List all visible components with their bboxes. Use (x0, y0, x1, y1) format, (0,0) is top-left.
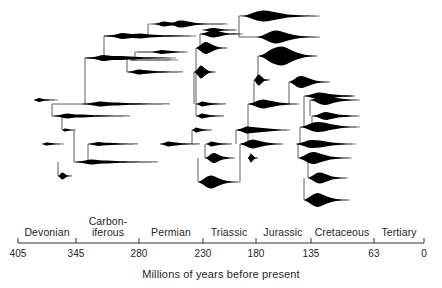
spindle (52, 113, 130, 118)
spindle (127, 69, 183, 74)
spindle-shapes (34, 10, 360, 207)
spindle (236, 126, 290, 133)
spindle-body (308, 173, 348, 184)
time-axis: DevonianCarbon- iferousPermianTriassicJu… (0, 212, 442, 288)
spindle (248, 154, 258, 163)
connector-lines (52, 16, 312, 200)
spindle-body (300, 122, 360, 132)
spindle (198, 175, 240, 188)
spindle-body (135, 50, 188, 54)
tick-label-230: 230 (183, 248, 223, 259)
spindle (82, 101, 170, 106)
spindle (74, 159, 158, 164)
spindle-body (148, 20, 228, 27)
spindle (239, 10, 320, 21)
spindle-body (74, 159, 158, 164)
spindle-body (206, 141, 232, 146)
spindle-body (127, 69, 183, 74)
spindle-body (239, 10, 320, 21)
spindle-body (42, 142, 64, 145)
spindle (298, 152, 352, 164)
spindle (192, 127, 212, 132)
spindle (300, 122, 360, 132)
spindle-body (298, 152, 352, 164)
spindle-body (256, 30, 320, 43)
spindle-body (312, 112, 360, 120)
spindle-body (58, 172, 72, 179)
spindle (205, 153, 235, 163)
spindle (254, 75, 270, 86)
spindle-body (196, 42, 228, 54)
spindle-body (34, 98, 58, 102)
tick-label-180: 180 (236, 248, 276, 259)
spindle (148, 20, 228, 27)
spindle (200, 30, 243, 37)
tick-label-135: 135 (291, 248, 331, 259)
spindle-body (202, 28, 237, 32)
spindle-body (248, 100, 300, 109)
spindle (135, 50, 188, 54)
spindle-body (296, 140, 356, 148)
spindle-body (82, 101, 170, 106)
plot-area (0, 0, 442, 215)
spindle-body (236, 126, 290, 133)
spindle (258, 46, 318, 65)
axis-line-and-ticks (18, 238, 424, 243)
spindle-body (198, 175, 240, 188)
axis-title: Millions of years before present (0, 268, 442, 280)
spindle (202, 28, 237, 32)
spindle-body (104, 33, 196, 39)
spindle-body (88, 142, 138, 146)
spindle (304, 193, 350, 207)
spindle-body (240, 140, 284, 149)
spindle-body (254, 75, 270, 86)
spindle-body (192, 127, 212, 132)
spindle (88, 142, 138, 146)
spindle (58, 172, 72, 179)
spindle (248, 100, 300, 109)
spindle-body (304, 193, 350, 207)
tick-label-280: 280 (119, 248, 159, 259)
spindle (160, 141, 200, 146)
spindle (256, 30, 320, 43)
spindle (312, 112, 360, 120)
spindle-body (52, 113, 130, 118)
tick-label-0: 0 (404, 248, 442, 259)
spindle (308, 173, 348, 184)
spindle-plot-svg (0, 0, 442, 215)
spindle (240, 140, 284, 149)
spindle (104, 33, 196, 39)
spindle-diagram-figure: DevonianCarbon- iferousPermianTriassicJu… (0, 0, 442, 288)
spindle (42, 142, 64, 145)
spindle-body (196, 101, 226, 106)
spindle-body (289, 76, 330, 88)
spindle-body (205, 153, 235, 163)
spindle-body (258, 46, 318, 65)
spindle-body (200, 30, 243, 37)
spindle (196, 42, 228, 54)
spindle (289, 76, 330, 88)
spindle (296, 140, 356, 148)
spindle-body (196, 113, 224, 118)
period-label-tertiary: Tertiary (354, 227, 442, 238)
spindle (196, 113, 224, 118)
tick-label-345: 345 (56, 248, 96, 259)
spindle (194, 65, 216, 78)
tick-label-405: 405 (0, 248, 38, 259)
spindle (34, 98, 58, 102)
tick-label-63: 63 (354, 248, 394, 259)
spindle-body (248, 154, 258, 163)
spindle-body (194, 65, 216, 78)
spindle (206, 141, 232, 146)
spindle (196, 101, 226, 106)
spindle-body (160, 141, 200, 146)
